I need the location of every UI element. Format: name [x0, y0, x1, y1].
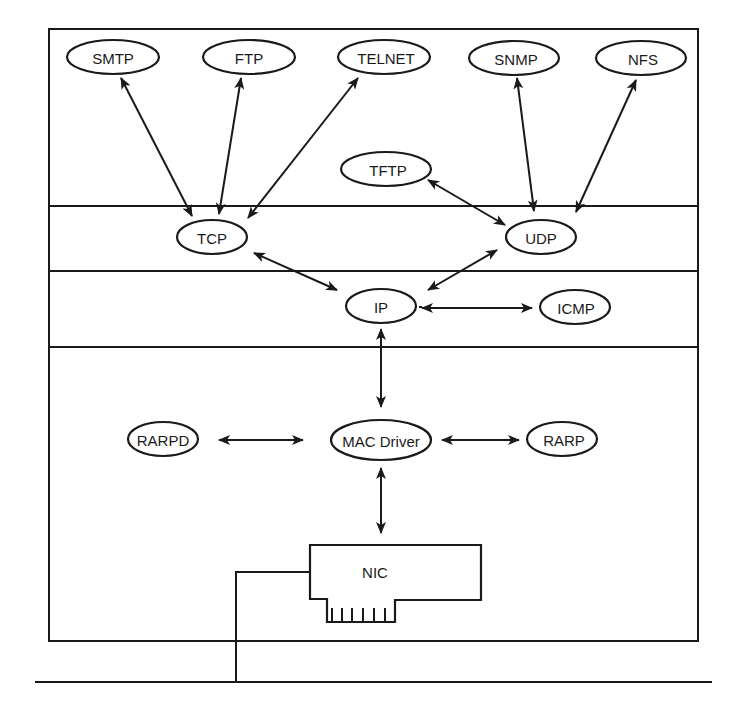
node-rarpd: RARPD: [128, 422, 198, 456]
node-ip-label: IP: [374, 299, 388, 316]
node-smtp: SMTP: [67, 40, 159, 74]
node-rarp: RARP: [527, 422, 597, 456]
node-mac-driver-label: MAC Driver: [342, 433, 420, 450]
protocol-stack-diagram: NIC SMTP FTP TELNET SNMP NFS TFTP TCP UD…: [0, 0, 738, 711]
node-smtp-label: SMTP: [92, 50, 134, 67]
node-ftp: FTP: [203, 40, 295, 74]
node-tcp-label: TCP: [197, 230, 227, 247]
node-tftp: TFTP: [341, 152, 431, 186]
node-nfs: NFS: [596, 41, 686, 75]
node-udp-label: UDP: [525, 230, 557, 247]
edge-snmp-udp: [517, 78, 534, 211]
node-rarpd-label: RARPD: [137, 432, 190, 449]
node-snmp: SNMP: [469, 41, 559, 75]
node-icmp: ICMP: [540, 290, 610, 324]
edge-ftp-tcp: [219, 78, 241, 214]
node-rarp-label: RARP: [543, 432, 585, 449]
node-icmp-label: ICMP: [557, 300, 595, 317]
node-tcp: TCP: [177, 220, 247, 254]
node-telnet-label: TELNET: [357, 50, 415, 67]
node-tftp-label: TFTP: [369, 162, 407, 179]
edge-tftp-udp: [428, 180, 505, 225]
node-nfs-label: NFS: [628, 51, 658, 68]
nic-card: NIC: [310, 545, 481, 622]
node-snmp-label: SNMP: [494, 51, 537, 68]
edge-nfs-udp: [576, 80, 636, 212]
node-ftp-label: FTP: [235, 50, 263, 67]
node-ip: IP: [346, 289, 416, 323]
edge-smtp-tcp: [121, 78, 192, 216]
edge-telnet-tcp: [248, 78, 358, 218]
node-telnet: TELNET: [338, 40, 430, 74]
node-udp: UDP: [506, 220, 576, 254]
nic-cable: [236, 572, 310, 682]
nic-label: NIC: [362, 564, 388, 581]
node-mac-driver: MAC Driver: [331, 420, 431, 460]
